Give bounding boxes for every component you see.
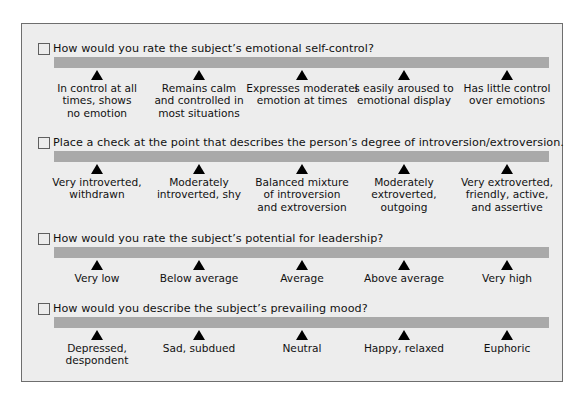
scale-point-label: Happy, relaxed [344, 342, 464, 354]
scale-point-1[interactable]: Very low [47, 260, 147, 284]
question-checkbox[interactable] [38, 137, 50, 149]
scale-point-label: Moderately introverted, shy [139, 176, 259, 201]
question-title: How would you rate the subject’s potenti… [38, 232, 383, 245]
scale-point-4[interactable]: Above average [354, 260, 454, 284]
triangle-marker-icon[interactable] [193, 164, 205, 174]
triangle-marker-icon[interactable] [501, 260, 513, 270]
scale-point-5[interactable]: Very extroverted, friendly, active, and … [457, 164, 557, 213]
triangle-marker-icon[interactable] [398, 70, 410, 80]
question-prompt: How would you describe the subject’s pre… [53, 302, 368, 315]
rating-form-panel: How would you rate the subject’s emotion… [21, 23, 563, 382]
question-prompt: How would you rate the subject’s potenti… [53, 232, 383, 245]
scale-point-label: Below average [139, 272, 259, 284]
triangle-marker-icon[interactable] [296, 260, 308, 270]
scale-point-3[interactable]: Balanced mixture of introversion and ext… [252, 164, 352, 213]
scale-point-label: Remains calm and controlled in most situ… [139, 82, 259, 119]
scale-point-2[interactable]: Remains calm and controlled in most situ… [149, 70, 249, 119]
triangle-marker-icon[interactable] [193, 70, 205, 80]
question-prompt: How would you rate the subject’s emotion… [53, 42, 374, 55]
scale-point-5[interactable]: Euphoric [457, 330, 557, 354]
scale-point-label: Above average [344, 272, 464, 284]
question-checkbox[interactable] [38, 43, 50, 55]
scale-point-1[interactable]: In control at all times, shows no emotio… [47, 70, 147, 119]
triangle-marker-icon[interactable] [398, 330, 410, 340]
question-prompt: Place a check at the point that describe… [53, 136, 564, 149]
triangle-marker-icon[interactable] [501, 330, 513, 340]
rating-scale-bar[interactable] [54, 57, 549, 68]
question-title: How would you rate the subject’s emotion… [38, 42, 374, 55]
scale-point-3[interactable]: Average [252, 260, 352, 284]
scale-point-label: Sad, subdued [139, 342, 259, 354]
scale-point-label: Euphoric [447, 342, 567, 354]
rating-scale-bar[interactable] [54, 151, 549, 162]
rating-scale-bar[interactable] [54, 247, 549, 258]
triangle-marker-icon[interactable] [398, 260, 410, 270]
scale-point-1[interactable]: Depressed, despondent [47, 330, 147, 367]
question-checkbox[interactable] [38, 303, 50, 315]
triangle-marker-icon[interactable] [398, 164, 410, 174]
scale-point-2[interactable]: Moderately introverted, shy [149, 164, 249, 201]
triangle-marker-icon[interactable] [91, 70, 103, 80]
scale-point-label: Very extroverted, friendly, active, and … [447, 176, 567, 213]
triangle-marker-icon[interactable] [91, 164, 103, 174]
question-title: Place a check at the point that describe… [38, 136, 564, 149]
scale-point-5[interactable]: Has little control over emotions [457, 70, 557, 107]
scale-point-label: Has little control over emotions [447, 82, 567, 107]
scale-point-4[interactable]: s easily aroused to emotional display [354, 70, 454, 107]
scale-point-1[interactable]: Very introverted, withdrawn [47, 164, 147, 201]
triangle-marker-icon[interactable] [296, 330, 308, 340]
rating-scale-bar[interactable] [54, 317, 549, 328]
triangle-marker-icon[interactable] [91, 260, 103, 270]
scale-point-label: s easily aroused to emotional display [344, 82, 464, 107]
scale-point-5[interactable]: Very high [457, 260, 557, 284]
scale-point-label: Very high [447, 272, 567, 284]
question-checkbox[interactable] [38, 233, 50, 245]
scale-point-3[interactable]: Neutral [252, 330, 352, 354]
question-title: How would you describe the subject’s pre… [38, 302, 368, 315]
triangle-marker-icon[interactable] [296, 164, 308, 174]
scale-point-label: Moderately extroverted, outgoing [344, 176, 464, 213]
triangle-marker-icon[interactable] [501, 164, 513, 174]
triangle-marker-icon[interactable] [296, 70, 308, 80]
triangle-marker-icon[interactable] [193, 260, 205, 270]
triangle-marker-icon[interactable] [91, 330, 103, 340]
scale-point-2[interactable]: Below average [149, 260, 249, 284]
triangle-marker-icon[interactable] [501, 70, 513, 80]
triangle-marker-icon[interactable] [193, 330, 205, 340]
scale-point-4[interactable]: Moderately extroverted, outgoing [354, 164, 454, 213]
scale-point-4[interactable]: Happy, relaxed [354, 330, 454, 354]
scale-point-2[interactable]: Sad, subdued [149, 330, 249, 354]
scale-point-3[interactable]: Expresses moderatel emotion at times [252, 70, 352, 107]
